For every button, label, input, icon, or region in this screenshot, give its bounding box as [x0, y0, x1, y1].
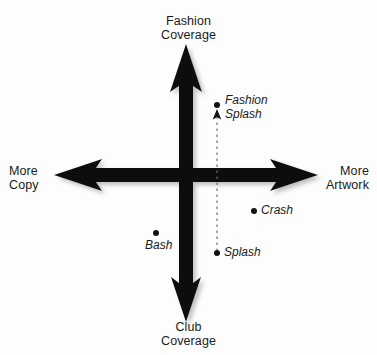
data-point-dot	[214, 250, 220, 256]
data-point-dot	[214, 102, 220, 108]
axis-label-more-copy: More Copy	[9, 164, 39, 192]
vertical-axis-arrow	[54, 44, 318, 322]
data-point-dot	[153, 230, 159, 236]
data-point-label-crash: Crash	[261, 204, 293, 218]
data-point-label-bash: Bash	[145, 239, 172, 253]
data-point-dot	[251, 208, 257, 214]
axis-cross	[0, 0, 377, 355]
data-point-label-fashion-splash: Fashion Splash	[225, 94, 268, 121]
data-point-label-splash: Splash	[224, 246, 261, 260]
positioning-map-diagram: Fashion Coverage Club Coverage More Copy…	[0, 0, 377, 355]
axis-label-more-artwork: More Artwork	[326, 164, 369, 192]
axis-label-fashion-coverage: Fashion Coverage	[0, 14, 377, 42]
axis-label-club-coverage: Club Coverage	[0, 320, 377, 348]
